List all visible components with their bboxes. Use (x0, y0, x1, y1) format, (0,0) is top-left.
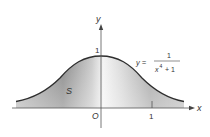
y-axis-arrow-icon (99, 24, 103, 30)
origin-label: O (92, 111, 99, 121)
formula-denominator-exp: 4 (160, 63, 163, 69)
y-axis-label: y (95, 14, 101, 24)
function-graph: y x 1 1 O S y = 1 x 4 + 1 (0, 0, 210, 137)
formula-numerator: 1 (167, 52, 171, 59)
x-tick-label-one: 1 (149, 112, 154, 121)
x-axis-arrow-icon (189, 106, 195, 110)
formula-lhs: y = (135, 58, 147, 67)
formula-denominator-rest: + 1 (165, 66, 175, 73)
y-tick-label-one: 1 (95, 46, 100, 55)
x-axis-label: x (196, 103, 202, 113)
function-formula: y = 1 x 4 + 1 (135, 52, 180, 73)
formula-denominator-base: x (154, 66, 159, 73)
region-label-s: S (66, 86, 72, 96)
